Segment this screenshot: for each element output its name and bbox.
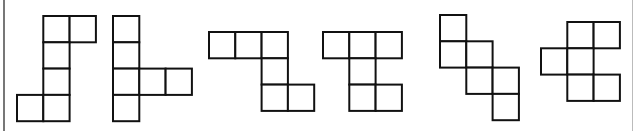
cube-nets-diagram xyxy=(0,0,634,131)
net-square xyxy=(43,42,69,68)
net-square xyxy=(440,15,466,41)
net-figure-6 xyxy=(541,22,620,101)
net-square xyxy=(113,42,139,68)
net-square xyxy=(323,32,349,58)
nets-svg xyxy=(0,0,634,131)
net-square xyxy=(349,58,375,84)
net-square xyxy=(493,68,519,94)
net-square xyxy=(567,48,593,74)
net-square xyxy=(262,32,288,58)
net-square xyxy=(376,32,402,58)
net-figure-1 xyxy=(17,16,96,121)
net-square xyxy=(376,85,402,111)
net-square xyxy=(493,94,519,120)
net-square xyxy=(209,32,235,58)
net-square xyxy=(262,85,288,111)
net-square xyxy=(43,16,69,42)
net-square xyxy=(262,58,288,84)
net-square xyxy=(567,22,593,48)
net-figure-5 xyxy=(440,15,519,120)
net-square xyxy=(113,16,139,42)
net-square xyxy=(466,68,492,94)
net-square xyxy=(594,22,620,48)
net-square xyxy=(541,48,567,74)
net-square xyxy=(139,69,165,95)
net-square xyxy=(17,95,43,121)
net-square xyxy=(594,75,620,101)
net-square xyxy=(466,41,492,67)
net-square xyxy=(349,85,375,111)
net-figure-2 xyxy=(113,16,192,121)
net-square xyxy=(166,69,192,95)
net-square xyxy=(70,16,96,42)
net-figure-3 xyxy=(209,32,314,111)
net-square xyxy=(43,95,69,121)
net-square xyxy=(235,32,261,58)
net-square xyxy=(349,32,375,58)
net-square xyxy=(113,69,139,95)
net-square xyxy=(440,41,466,67)
net-square xyxy=(113,95,139,121)
net-square xyxy=(43,69,69,95)
net-square xyxy=(567,75,593,101)
net-square xyxy=(288,85,314,111)
net-figure-4 xyxy=(323,32,402,111)
